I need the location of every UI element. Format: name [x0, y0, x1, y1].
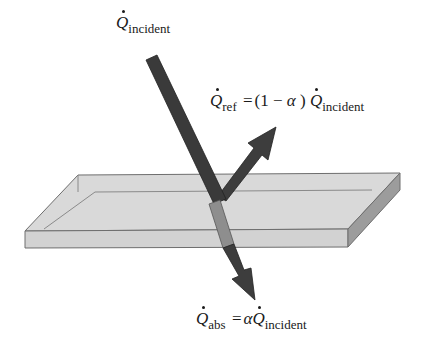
paren-close: ) — [300, 91, 306, 110]
reflected-label: Qref =(1 − α ) Qincident — [210, 92, 364, 109]
incident-label: Qincident — [116, 14, 170, 31]
q-dot-symbol: Q — [116, 14, 128, 31]
incident-subscript: incident — [322, 99, 364, 114]
incident-subscript: incident — [265, 317, 307, 332]
ref-subscript: ref — [222, 99, 236, 114]
incident-subscript: incident — [128, 21, 170, 36]
q-dot-symbol: Q — [196, 310, 208, 327]
absorbed-label: Qabs =αQincident — [196, 310, 307, 327]
alpha-symbol: α — [287, 91, 296, 110]
equals-sign: = — [241, 91, 255, 110]
diagram-canvas — [0, 0, 424, 344]
q-dot-symbol: Q — [252, 310, 264, 327]
q-dot-symbol: Q — [310, 92, 322, 109]
paren-open: (1 − — [255, 91, 283, 110]
q-dot-symbol: Q — [210, 92, 222, 109]
equals-sign: = — [230, 309, 244, 328]
slab-front-face — [25, 229, 348, 248]
abs-subscript: abs — [208, 317, 225, 332]
alpha-symbol: α — [243, 309, 252, 328]
